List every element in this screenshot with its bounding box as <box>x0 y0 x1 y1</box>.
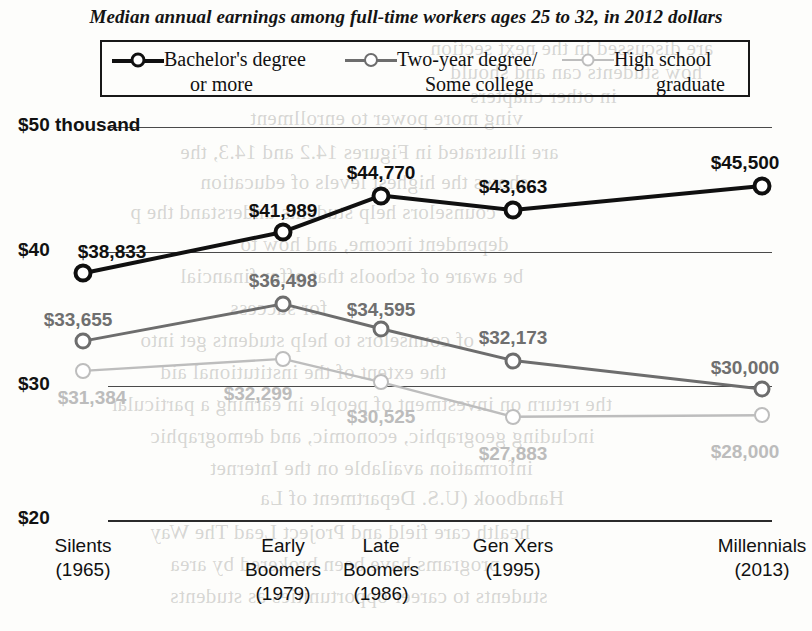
data-point-label: $28,000 <box>711 441 780 463</box>
data-point-marker[interactable] <box>504 201 523 220</box>
data-point-marker[interactable] <box>373 320 390 337</box>
data-point-label: $45,500 <box>711 152 780 174</box>
data-point-label: $36,498 <box>249 270 318 292</box>
x-axis-tick-year: (1965) <box>54 558 111 582</box>
data-point-label: $34,595 <box>347 299 416 321</box>
data-point-marker[interactable] <box>75 363 91 379</box>
x-axis-tick-label: Late <box>343 534 419 558</box>
data-point-marker[interactable] <box>505 409 521 425</box>
data-point-label: $32,173 <box>479 327 548 349</box>
data-point-label: $41,989 <box>249 200 318 222</box>
data-point-marker[interactable] <box>753 176 772 195</box>
data-point-marker[interactable] <box>274 222 293 241</box>
data-point-marker[interactable] <box>275 295 292 312</box>
data-point-marker[interactable] <box>372 186 391 205</box>
data-point-marker[interactable] <box>754 407 770 423</box>
data-point-label: $38,833 <box>78 241 147 263</box>
data-point-label: $30,525 <box>347 406 416 428</box>
plot-area: $50 thousand $40 $30 $20 $38,833$41,989$… <box>0 0 812 631</box>
x-axis-tick-gen-xers: Gen Xers(1995) <box>473 534 553 582</box>
x-axis-tick-label: Silents <box>54 534 111 558</box>
x-axis-tick-label: Boomers <box>343 558 419 582</box>
series-line <box>83 186 762 273</box>
x-axis-tick-label: Millennials <box>718 534 807 558</box>
x-axis-tick-early-boomers: EarlyBoomers(1979) <box>245 534 321 606</box>
series-line <box>83 359 762 417</box>
data-point-marker[interactable] <box>74 264 93 283</box>
data-point-marker[interactable] <box>754 381 771 398</box>
data-point-label: $32,299 <box>224 383 293 405</box>
chart-page: are discussed in the next section how st… <box>0 0 812 631</box>
data-point-marker[interactable] <box>275 351 291 367</box>
data-point-marker[interactable] <box>505 352 522 369</box>
series-line <box>83 304 762 389</box>
x-axis-tick-year: (2013) <box>718 558 807 582</box>
data-point-label: $31,384 <box>58 387 127 409</box>
x-axis-tick-year: (1986) <box>343 582 419 606</box>
x-axis-tick-millennials: Millennials(2013) <box>718 534 807 582</box>
x-axis-tick-silents: Silents(1965) <box>54 534 111 582</box>
x-axis-tick-label: Boomers <box>245 558 321 582</box>
data-point-label: $33,655 <box>44 309 113 331</box>
data-point-marker[interactable] <box>373 374 389 390</box>
data-point-marker[interactable] <box>75 333 92 350</box>
x-axis-tick-label: Early <box>245 534 321 558</box>
x-axis-tick-late-boomers: LateBoomers(1986) <box>343 534 419 606</box>
x-axis-tick-year: (1995) <box>473 558 553 582</box>
x-axis-tick-year: (1979) <box>245 582 321 606</box>
data-point-label: $27,883 <box>479 443 548 465</box>
data-point-label: $44,770 <box>347 162 416 184</box>
x-axis-tick-label: Gen Xers <box>473 534 553 558</box>
data-point-label: $43,663 <box>479 176 548 198</box>
data-point-label: $30,000 <box>711 357 780 379</box>
